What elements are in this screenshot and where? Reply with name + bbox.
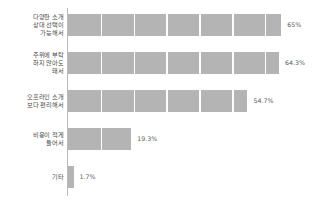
bar-fill[interactable] — [68, 14, 281, 36]
category-label: 다양한 소개 상대 선택이 가능해서 — [2, 13, 64, 38]
bar-track — [68, 14, 281, 36]
bar-fill[interactable] — [68, 128, 131, 150]
category-label: 비용이 적게 들어서 — [2, 131, 64, 147]
bar-fill[interactable] — [68, 52, 279, 74]
bar-track — [68, 128, 131, 150]
bar-fill[interactable] — [68, 166, 74, 188]
bar-track — [68, 90, 247, 112]
category-label: 오프라인 소개 보다 편리해서 — [2, 93, 64, 109]
bar-value-label: 65% — [287, 14, 301, 36]
bar-chart: 다양한 소개 상대 선택이 가능해서 65% 주위에 부탁 하지 않아도 돼서 … — [0, 0, 327, 209]
bar-fill[interactable] — [68, 90, 247, 112]
bar-value-label: 1.7% — [80, 166, 96, 188]
bar-track — [68, 52, 279, 74]
bar-value-label: 64.3% — [285, 52, 305, 74]
category-label: 주위에 부탁 하지 않아도 돼서 — [2, 51, 64, 76]
category-label: 기타 — [2, 173, 64, 181]
bar-value-label: 19.3% — [137, 128, 157, 150]
bar-value-label: 54.7% — [253, 90, 273, 112]
bar-track — [68, 166, 74, 188]
